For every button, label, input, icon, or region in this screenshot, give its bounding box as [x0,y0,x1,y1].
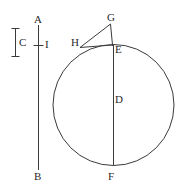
point-label-a: A [34,14,42,25]
measure-label-c: C [19,37,26,48]
geometry-figure: A C I B G H E D F [0,0,189,193]
point-label-f: F [108,171,114,182]
point-label-g: G [107,12,115,23]
segment-g-to-e [111,24,113,46]
point-label-d: D [115,94,123,105]
point-label-h: H [71,37,79,48]
tangent-segment-g-to-h [80,24,111,48]
point-label-i: I [45,39,49,50]
point-label-e: E [115,44,122,55]
point-label-b: B [34,171,41,182]
geometry-canvas [0,0,189,193]
